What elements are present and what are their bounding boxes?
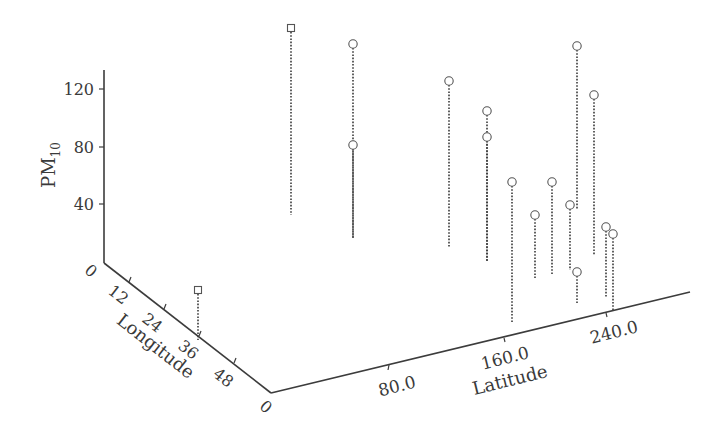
circle-marker (609, 230, 617, 238)
square-marker (288, 25, 295, 32)
origin-tick-0-bottom: 0 (256, 396, 276, 417)
circle-marker (602, 223, 610, 231)
circle-marker (483, 107, 491, 115)
origin-tick-0-left: 0 (81, 260, 101, 281)
circle-marker (566, 201, 574, 209)
longitude-tick-48: 48 (209, 364, 237, 392)
chart-3d-scatter: 120 80 40 0 PM10 12 24 36 48 0 Longitude… (0, 0, 723, 434)
pm10-tick-40: 40 (74, 195, 94, 214)
svg-text:PM10: PM10 (38, 142, 63, 188)
data-markers (195, 25, 618, 294)
circle-marker (349, 40, 357, 48)
pm10-axis-label: PM10 (38, 142, 63, 188)
latitude-tick-80: 80.0 (376, 372, 418, 401)
circle-marker (573, 42, 581, 50)
circle-marker (590, 91, 598, 99)
longitude-tick-12: 12 (104, 281, 132, 309)
pm10-tick-80: 80 (74, 138, 94, 157)
circle-marker (548, 178, 556, 186)
circle-marker (573, 268, 581, 276)
circle-marker (508, 178, 516, 186)
circle-marker (531, 211, 539, 219)
circle-marker (349, 141, 357, 149)
circle-marker (445, 77, 453, 85)
pm10-ticks: 120 80 40 0 (63, 80, 104, 281)
square-marker (195, 287, 202, 294)
pm10-tick-120: 120 (63, 80, 94, 99)
latitude-tick-240: 240.0 (588, 316, 640, 347)
longitude-ticks: 12 24 36 48 0 (104, 277, 276, 417)
circle-marker (483, 133, 491, 141)
